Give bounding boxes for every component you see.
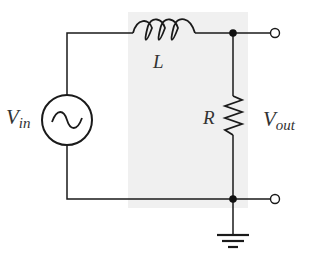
junction-node-bottom — [229, 195, 237, 203]
inductor-label: L — [152, 51, 164, 72]
output-terminal-bottom — [271, 195, 280, 204]
shaded-filter-region — [128, 12, 248, 208]
junction-node-top — [229, 29, 237, 37]
ground-icon — [217, 235, 249, 247]
wire-top-left — [67, 33, 133, 95]
resistor-label: R — [202, 107, 215, 128]
source-label: Vin — [6, 105, 31, 131]
circuit-diagram: L R Vin Vout — [0, 0, 312, 260]
output-terminal-top — [271, 29, 280, 38]
output-label: Vout — [263, 107, 296, 133]
